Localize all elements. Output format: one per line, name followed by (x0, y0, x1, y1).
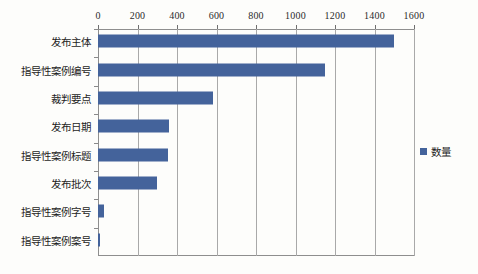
x-tick-mark-0 (98, 25, 99, 29)
gridline-1400 (375, 29, 376, 256)
y-tick-mark-5 (94, 171, 98, 172)
x-tick-mark-600 (217, 25, 218, 29)
x-tick-mark-1200 (335, 25, 336, 29)
x-tick-label-200: 200 (130, 10, 146, 21)
x-tick-label-600: 600 (209, 10, 225, 21)
x-tick-label-1200: 1200 (325, 10, 346, 21)
x-tick-label-400: 400 (169, 10, 185, 21)
y-tick-mark-6 (94, 199, 98, 200)
y-tick-mark-2 (94, 86, 98, 87)
y-category-label-4: 指导性案例标题 (21, 147, 91, 162)
y-category-label-6: 指导性案例字号 (21, 204, 91, 219)
y-tick-mark-1 (94, 57, 98, 58)
bar-5 (98, 177, 157, 190)
y-category-label-7: 指导性案例案号 (21, 232, 91, 247)
x-tick-label-1600: 1600 (404, 10, 425, 21)
bar-7 (98, 233, 100, 246)
y-tick-mark-7 (94, 228, 98, 229)
y-tick-mark-0 (94, 29, 98, 30)
bar-2 (98, 91, 213, 104)
bar-0 (98, 35, 394, 48)
x-tick-label-800: 800 (248, 10, 264, 21)
bar-3 (98, 120, 169, 133)
x-tick-mark-1000 (296, 25, 297, 29)
x-tick-mark-400 (177, 25, 178, 29)
bar-4 (98, 148, 168, 161)
x-tick-mark-1400 (375, 25, 376, 29)
y-tick-mark-3 (94, 114, 98, 115)
bar-6 (98, 205, 104, 218)
x-tick-mark-200 (138, 25, 139, 29)
x-tick-mark-1600 (414, 25, 415, 29)
y-axis-category-labels: 发布主体指导性案例编号裁判要点发布日期指导性案例标题发布批次指导性案例字号指导性… (0, 0, 96, 274)
y-tick-mark-4 (94, 143, 98, 144)
legend-label-quantity: 数量 (431, 144, 451, 159)
plot-area (98, 29, 414, 256)
x-tick-label-1000: 1000 (285, 10, 306, 21)
gridline-1200 (335, 29, 336, 256)
y-category-label-1: 指导性案例编号 (21, 62, 91, 77)
bar-1 (98, 63, 325, 76)
y-category-label-2: 裁判要点 (51, 90, 91, 105)
chart-legend: 数量 (420, 144, 451, 159)
y-category-label-0: 发布主体 (51, 34, 91, 49)
y-category-label-5: 发布批次 (51, 176, 91, 191)
x-tick-label-0: 0 (95, 10, 100, 21)
y-category-label-3: 发布日期 (51, 119, 91, 134)
x-tick-label-1400: 1400 (364, 10, 385, 21)
bar-chart: 02004006008001000120014001600 发布主体指导性案例编… (0, 0, 478, 274)
gridline-1600 (414, 29, 415, 256)
x-tick-mark-800 (256, 25, 257, 29)
legend-swatch-quantity (420, 148, 427, 155)
